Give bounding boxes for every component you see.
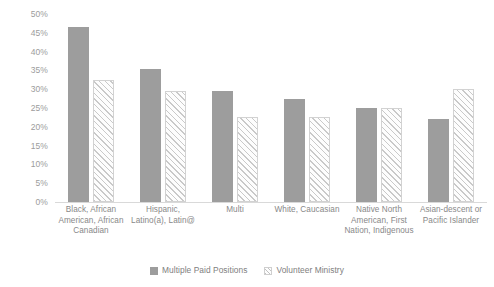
bar-group xyxy=(127,14,199,202)
legend-item-multiple-paid-positions[interactable]: Multiple Paid Positions xyxy=(150,266,247,275)
y-tick-label: 50% xyxy=(31,10,48,19)
plot-bars xyxy=(55,14,487,202)
x-axis-line xyxy=(55,202,487,203)
bar-multiple-paid-positions[interactable] xyxy=(140,69,161,202)
grouped-bar-chart: 50% 45% 40% 35% 30% 25% 20% 15% 10% 5% 0… xyxy=(0,0,494,287)
legend-label: Multiple Paid Positions xyxy=(162,266,247,275)
x-axis-category-label: Asian-descent or Pacific Islander xyxy=(415,205,487,265)
bar-group xyxy=(271,14,343,202)
bar-volunteer-ministry[interactable] xyxy=(309,117,330,202)
bar-multiple-paid-positions[interactable] xyxy=(356,108,377,202)
x-axis-category-label: White, Caucasian xyxy=(271,205,343,265)
bar-multiple-paid-positions[interactable] xyxy=(284,99,305,202)
bar-volunteer-ministry[interactable] xyxy=(237,117,258,202)
y-tick-label: 35% xyxy=(31,66,48,75)
bar-multiple-paid-positions[interactable] xyxy=(212,91,233,202)
y-tick-label: 10% xyxy=(31,160,48,169)
x-axis-category-label: Multi xyxy=(199,205,271,265)
y-tick-label: 0% xyxy=(36,198,49,207)
y-tick-label: 20% xyxy=(31,122,48,131)
bar-multiple-paid-positions[interactable] xyxy=(428,119,449,202)
x-axis-category-label: Hispanic, Latino(a), Latin@ xyxy=(127,205,199,265)
legend-item-volunteer-ministry[interactable]: Volunteer Ministry xyxy=(264,266,343,275)
bar-group xyxy=(199,14,271,202)
bar-group xyxy=(343,14,415,202)
legend-label: Volunteer Ministry xyxy=(276,266,343,275)
y-axis: 50% 45% 40% 35% 30% 25% 20% 15% 10% 5% 0… xyxy=(0,0,52,287)
bar-multiple-paid-positions[interactable] xyxy=(68,27,89,202)
y-tick-label: 40% xyxy=(31,47,48,56)
y-tick-label: 5% xyxy=(36,179,49,188)
bar-volunteer-ministry[interactable] xyxy=(453,89,474,202)
x-axis-category-label: Native North American, First Nation, Ind… xyxy=(343,205,415,265)
y-tick-label: 45% xyxy=(31,28,48,37)
x-axis-category-label: Black, African American, African Canadia… xyxy=(55,205,127,265)
bar-group xyxy=(415,14,487,202)
x-axis-labels: Black, African American, African Canadia… xyxy=(55,205,487,265)
chart-legend: Multiple Paid Positions Volunteer Minist… xyxy=(0,266,494,275)
bar-volunteer-ministry[interactable] xyxy=(165,91,186,202)
bar-volunteer-ministry[interactable] xyxy=(381,108,402,202)
solid-square-icon xyxy=(150,267,158,275)
y-tick-label: 15% xyxy=(31,141,48,150)
bar-group xyxy=(55,14,127,202)
y-tick-label: 30% xyxy=(31,85,48,94)
hatched-square-icon xyxy=(264,267,272,275)
y-tick-label: 25% xyxy=(31,104,48,113)
bar-volunteer-ministry[interactable] xyxy=(93,80,114,202)
